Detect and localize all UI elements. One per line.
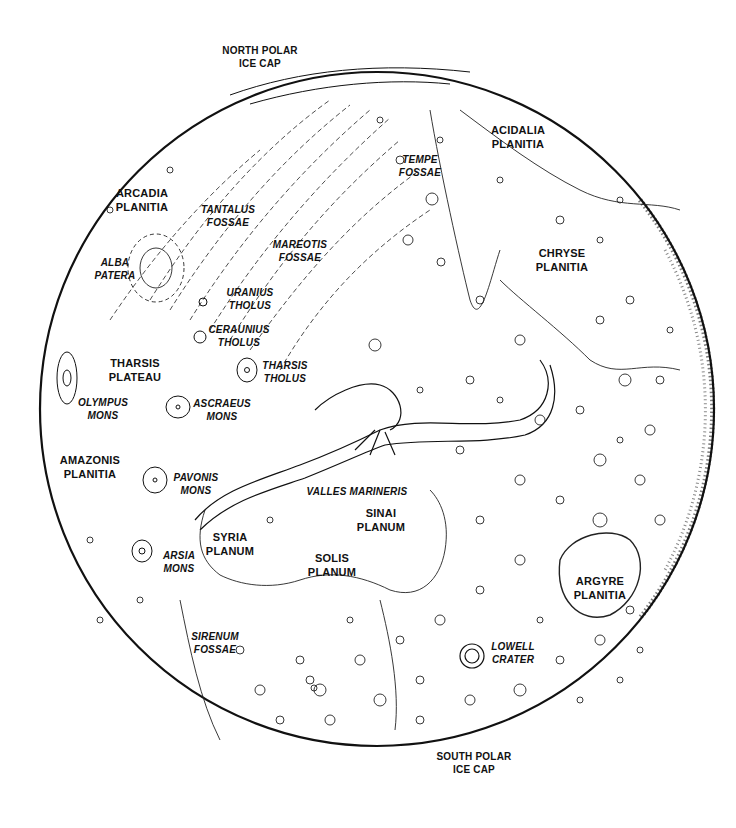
label-lowell-crater: LOWELLCRATER	[453, 640, 573, 666]
label-line: THARSIS	[75, 356, 195, 370]
label-line: VALLES MARINERIS	[297, 485, 417, 498]
label-line: TANTALUS	[168, 203, 288, 216]
label-valles-marineris: VALLES MARINERIS	[297, 485, 417, 498]
label-arsia-mons: ARSIAMONS	[119, 549, 239, 575]
label-acidalia-planitia: ACIDALIAPLANITIA	[458, 123, 578, 151]
label-line: ARSIA	[119, 549, 239, 562]
label-line: MONS	[136, 484, 256, 497]
label-line: PLANUM	[321, 520, 441, 534]
label-line: PLANUM	[272, 565, 392, 579]
label-line: TEMPE	[360, 153, 480, 166]
label-olympus-mons: OLYMPUSMONS	[43, 396, 163, 422]
label-line: ARCADIA	[82, 186, 202, 200]
label-tempe-fossae: TEMPEFOSSAE	[360, 153, 480, 179]
label-line: FOSSAE	[155, 643, 275, 656]
label-mareotis-fossae: MAREOTISFOSSAE	[240, 238, 360, 264]
label-line: NORTH POLAR	[211, 44, 309, 57]
label-line: PATERA	[55, 269, 175, 282]
label-line: THARSIS	[225, 359, 345, 372]
label-line: URANIUS	[190, 286, 310, 299]
label-line: THOLUS	[225, 372, 345, 385]
label-line: MONS	[162, 410, 282, 423]
label-tharsis-tholus: THARSISTHOLUS	[225, 359, 345, 385]
label-line: CRATER	[453, 653, 573, 666]
label-line: ICE CAP	[211, 57, 309, 70]
label-line: PLANITIA	[30, 467, 150, 481]
label-line: ASCRAEUS	[162, 397, 282, 410]
label-sinai-planum: SINAIPLANUM	[321, 506, 441, 534]
label-uranius-tholus: URANIUSTHOLUS	[190, 286, 310, 312]
label-line: PLANITIA	[540, 588, 660, 602]
label-line: CERAUNIUS	[179, 323, 299, 336]
label-line: FOSSAE	[240, 251, 360, 264]
label-line: FOSSAE	[168, 216, 288, 229]
label-line: PLANITIA	[458, 137, 578, 151]
label-line: THOLUS	[190, 299, 310, 312]
label-line: ACIDALIA	[458, 123, 578, 137]
label-line: PAVONIS	[136, 471, 256, 484]
label-amazonis-planitia: AMAZONISPLANITIA	[30, 453, 150, 481]
label-pavonis-mons: PAVONISMONS	[136, 471, 256, 497]
label-line: LOWELL	[453, 640, 573, 653]
label-line: PLANITIA	[502, 260, 622, 274]
label-ascraeus-mons: ASCRAEUSMONS	[162, 397, 282, 423]
label-tharsis-plateau: THARSISPLATEAU	[75, 356, 195, 384]
label-line: MONS	[119, 562, 239, 575]
label-chryse-planitia: CHRYSEPLANITIA	[502, 246, 622, 274]
label-line: OLYMPUS	[43, 396, 163, 409]
label-line: SINAI	[321, 506, 441, 520]
label-line: SOUTH POLAR	[420, 750, 528, 763]
label-line: ICE CAP	[420, 763, 528, 776]
label-line: MONS	[43, 409, 163, 422]
label-ceraunius-tholus: CERAUNIUSTHOLUS	[179, 323, 299, 349]
label-tantalus-fossae: TANTALUSFOSSAE	[168, 203, 288, 229]
label-north-polar-ice-cap: NORTH POLAR ICE CAP	[211, 44, 309, 70]
label-line: FOSSAE	[360, 166, 480, 179]
label-line: ALBA	[55, 256, 175, 269]
label-line: CHRYSE	[502, 246, 622, 260]
label-line: ARGYRE	[540, 574, 660, 588]
label-solis-planum: SOLISPLANUM	[272, 551, 392, 579]
label-south-polar-ice-cap: SOUTH POLAR ICE CAP	[420, 750, 528, 776]
label-alba-patera: ALBAPATERA	[55, 256, 175, 282]
label-line: SIRENUM	[155, 630, 275, 643]
label-line: AMAZONIS	[30, 453, 150, 467]
label-sirenum-fossae: SIRENUMFOSSAE	[155, 630, 275, 656]
label-line: SOLIS	[272, 551, 392, 565]
label-argyre-planitia: ARGYREPLANITIA	[540, 574, 660, 602]
label-line: MAREOTIS	[240, 238, 360, 251]
label-line: SYRIA	[170, 530, 290, 544]
label-line: THOLUS	[179, 336, 299, 349]
label-line: PLATEAU	[75, 370, 195, 384]
